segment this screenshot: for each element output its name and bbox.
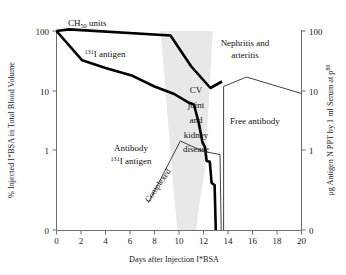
right-tick-label-100: 100 — [309, 27, 323, 37]
x-tick-label-18: 18 — [273, 236, 283, 246]
left-tick-label-10: 10 — [40, 87, 50, 97]
annotation-complexed: Complexed — [143, 167, 173, 204]
cv-line-4: kidney — [184, 130, 209, 140]
x-tick-label-4: 4 — [103, 236, 108, 246]
left-tick-label-100: 100 — [36, 27, 50, 37]
nephritis-line-1: Nephritis and — [221, 38, 270, 48]
left-tick-labels: 100 10 1 0 — [36, 27, 50, 236]
series-free-antibody — [224, 77, 302, 230]
x-tick-label-8: 8 — [152, 236, 157, 246]
x-axis-title: Days after Injection I*BSA — [129, 255, 219, 264]
x-tick-label-10: 10 — [175, 236, 185, 246]
annotation-ch50-units: CH50 units — [68, 18, 107, 29]
left-tick-label-1: 1 — [45, 146, 50, 156]
y-axis-title-left: % Injected I*BSA in Total Blood Volume — [7, 62, 16, 198]
x-tick-label-12: 12 — [199, 236, 208, 246]
x-tick-label-0: 0 — [54, 236, 59, 246]
cv-line-1: CV — [190, 85, 203, 95]
nephritis-line-2: arteritis — [231, 50, 259, 60]
x-tick-label-14: 14 — [224, 236, 234, 246]
y-axis-title-right: μg Antigen N PPT by 1 ml Serum at p80 — [324, 64, 335, 195]
left-tick-label-0: 0 — [45, 226, 50, 236]
y-axis-right-sup: 80 — [324, 64, 331, 70]
y-axis-right-prefix: μg Antigen N PPT by 1 ml Serum at p — [326, 71, 335, 196]
x-tick-label-6: 6 — [128, 236, 133, 246]
right-tick-label-10: 10 — [309, 87, 319, 97]
x-tick-label-2: 2 — [79, 236, 84, 246]
right-tick-label-0: 0 — [309, 226, 314, 236]
cv-line-5: disease — [183, 144, 209, 154]
antibody-line-1: Antibody — [114, 143, 149, 153]
x-tick-label-20: 20 — [297, 236, 307, 246]
chart-svg: 100 10 1 0 100 10 1 0 0 2 4 6 8 10 12 14… — [0, 0, 346, 275]
antibody-antigen-text: I antigen — [120, 156, 152, 166]
antibody-superscript: 131 — [110, 155, 119, 162]
antigen-superscript: 131 — [84, 48, 93, 55]
right-tick-label-1: 1 — [309, 146, 314, 156]
ch50-units-text: units — [87, 18, 107, 28]
antibody-line-2: 131I antigen — [110, 155, 152, 166]
antigen-text: I antigen — [94, 49, 126, 59]
ch50-text: CH — [68, 18, 81, 28]
cv-line-3: and — [190, 115, 203, 125]
right-tick-labels: 100 10 1 0 — [309, 27, 323, 236]
annotation-nephritis-arteritis: Nephritis and arteritis — [221, 38, 270, 60]
immune-complex-chart-figure: 100 10 1 0 100 10 1 0 0 2 4 6 8 10 12 14… — [0, 0, 346, 275]
annotation-antibody-131i-antigen: Antibody 131I antigen — [110, 143, 152, 166]
x-tick-labels: 0 2 4 6 8 10 12 14 16 18 20 — [54, 236, 306, 246]
annotation-free-antibody: Free antibody — [230, 116, 280, 126]
x-tick-label-16: 16 — [248, 236, 258, 246]
cv-line-2: joint — [187, 100, 205, 110]
annotation-131i-antigen: 131I antigen — [84, 48, 126, 59]
